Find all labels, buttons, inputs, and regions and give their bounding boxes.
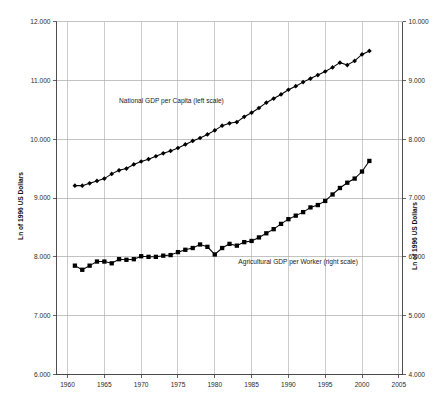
x-tick-label: 1980 (207, 381, 222, 388)
data-point-marker (330, 192, 334, 196)
data-point-marker (360, 169, 364, 173)
data-point-marker (286, 217, 290, 221)
data-point-marker (213, 252, 217, 256)
x-tick-label: 1960 (60, 381, 75, 388)
x-tick-label: 1975 (171, 381, 186, 388)
right-tick-label: 9.000 (409, 77, 426, 84)
right-tick-label: 8.000 (409, 136, 426, 143)
data-point-marker (272, 227, 276, 231)
chart-container: 6.0007.0008.0009.00010.00011.00012.000 4… (0, 0, 434, 411)
left-tick-label: 10.000 (30, 136, 51, 143)
right-tick-label: 7.000 (409, 194, 426, 201)
data-point-marker (110, 261, 114, 265)
data-point-marker (117, 257, 121, 261)
data-point-marker (338, 186, 342, 190)
data-point-marker (191, 246, 195, 250)
x-tick-label: 2000 (355, 381, 370, 388)
data-point-marker (139, 254, 143, 258)
data-point-marker (242, 240, 246, 244)
data-point-marker (102, 259, 106, 263)
data-point-marker (249, 239, 253, 243)
right-axis-title: Ln of 1996 US Dollars (411, 202, 418, 270)
data-point-marker (73, 264, 77, 268)
left-axis-title: Ln of 1996 US Dollars (17, 172, 24, 240)
left-tick-label: 11.000 (31, 77, 51, 84)
x-tick-label: 1970 (134, 381, 149, 388)
dual-axis-line-chart: 6.0007.0008.0009.00010.00011.00012.000 4… (0, 0, 434, 411)
right-tick-label: 10.000 (409, 18, 430, 25)
x-tick-label: 1995 (318, 381, 333, 388)
data-point-marker (345, 181, 349, 185)
data-point-marker (220, 246, 224, 250)
data-point-marker (198, 242, 202, 246)
series-annotation: Agricultural GDP per Worker (right scale… (238, 258, 358, 266)
left-tick-label: 7.000 (34, 312, 51, 319)
data-point-marker (257, 235, 261, 239)
data-point-marker (316, 203, 320, 207)
x-tick-label: 1965 (97, 381, 112, 388)
x-tick-label: 2005 (391, 381, 406, 388)
data-point-marker (146, 255, 150, 259)
data-point-marker (367, 159, 371, 163)
data-point-marker (95, 259, 99, 263)
left-tick-label: 6.000 (34, 371, 51, 378)
data-point-marker (235, 244, 239, 248)
data-point-marker (308, 205, 312, 209)
data-point-marker (87, 264, 91, 268)
data-point-marker (205, 245, 209, 249)
data-point-marker (301, 210, 305, 214)
data-point-marker (183, 248, 187, 252)
data-point-marker (176, 250, 180, 254)
right-tick-label: 5.000 (409, 312, 426, 319)
x-tick-label: 1985 (244, 381, 259, 388)
right-tick-label: 4.000 (409, 371, 426, 378)
data-point-marker (294, 214, 298, 218)
data-point-marker (154, 255, 158, 259)
left-tick-label: 9.000 (34, 194, 51, 201)
series-annotation: National GDP per Capita (left scale) (119, 97, 224, 105)
data-point-marker (124, 258, 128, 262)
data-point-marker (323, 199, 327, 203)
data-point-marker (264, 231, 268, 235)
data-point-marker (279, 222, 283, 226)
left-tick-label: 12.000 (30, 18, 51, 25)
data-point-marker (80, 268, 84, 272)
data-point-marker (161, 254, 165, 258)
x-tick-label: 1990 (281, 381, 296, 388)
data-point-marker (227, 242, 231, 246)
data-point-marker (352, 176, 356, 180)
left-tick-label: 8.000 (34, 253, 51, 260)
data-point-marker (132, 257, 136, 261)
data-point-marker (168, 253, 172, 257)
